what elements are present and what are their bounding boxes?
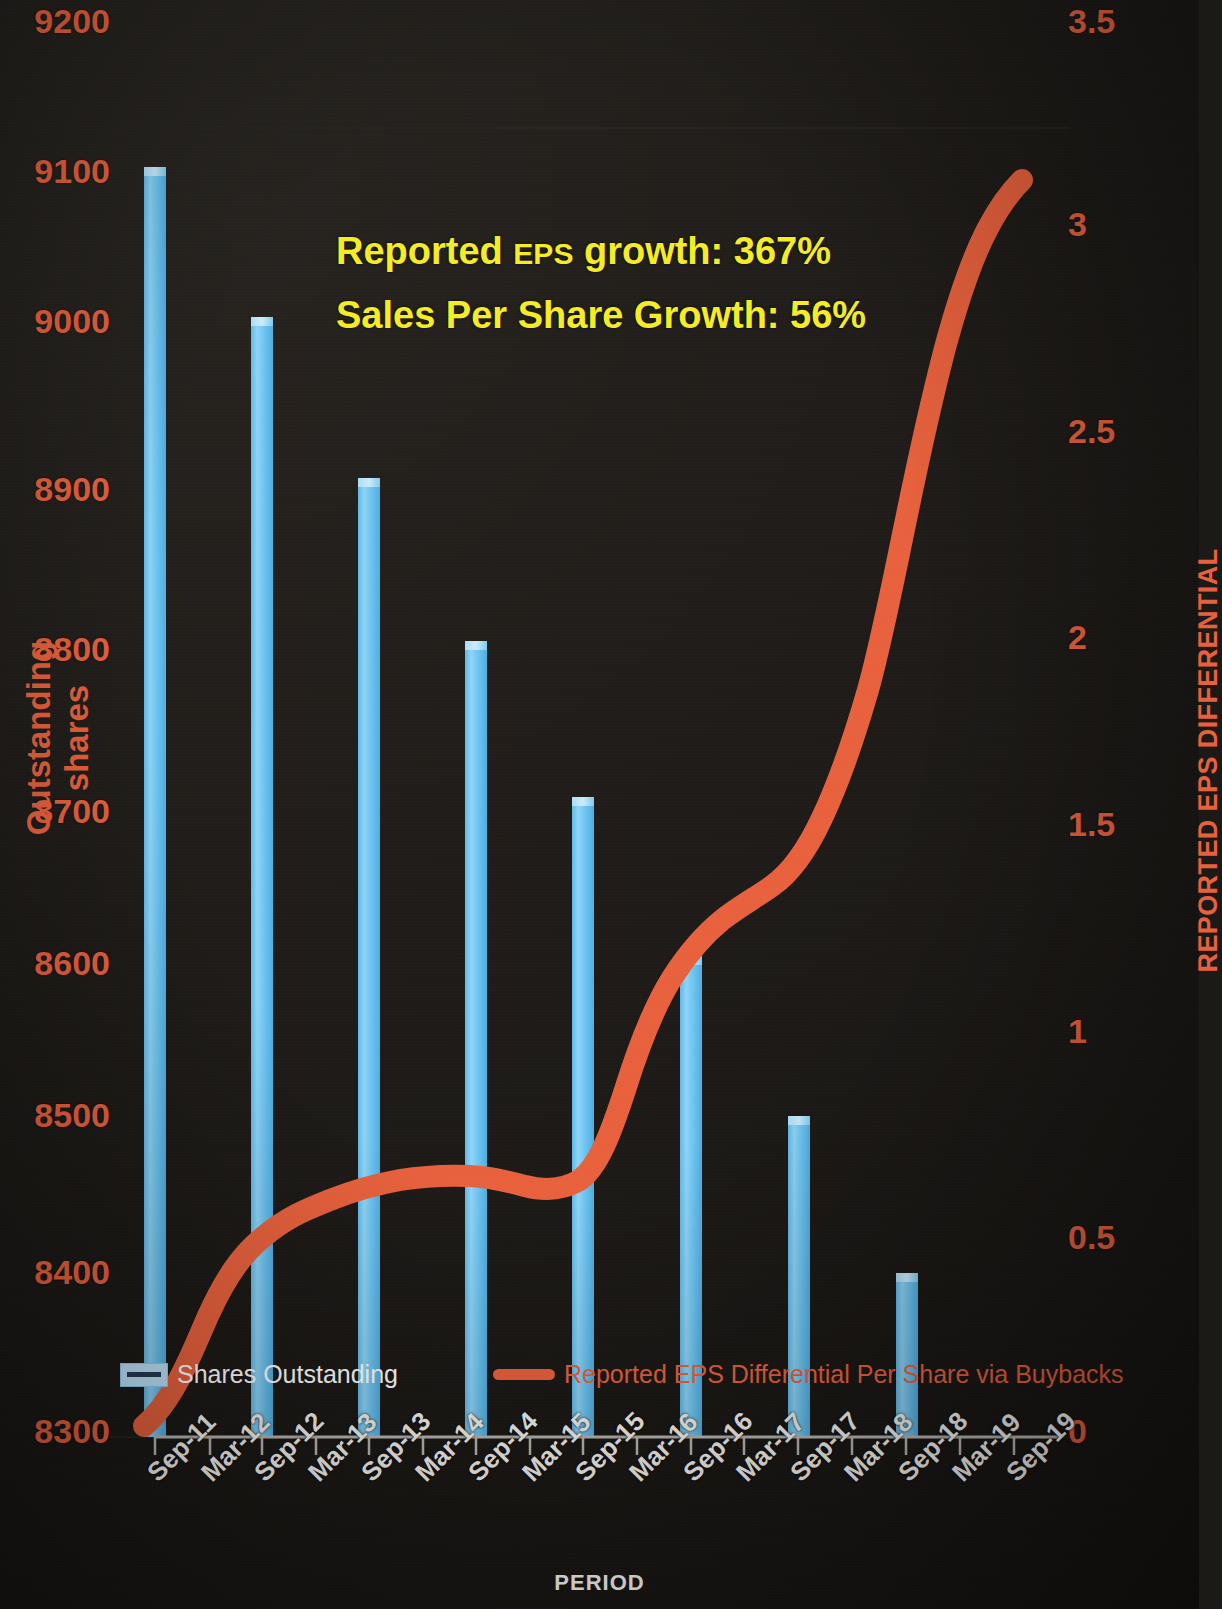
bar	[572, 797, 594, 1437]
bar	[358, 478, 380, 1437]
annotation-eps-growth-acronym: EPS	[513, 237, 573, 270]
bar	[144, 167, 166, 1437]
annotation-eps-growth-suffix: growth: 367%	[573, 230, 831, 272]
bar	[465, 641, 487, 1437]
annotation-eps-growth: Reported EPS growth: 367%	[336, 230, 831, 273]
legend-label-shares-outstanding: Shares Outstanding	[177, 1360, 398, 1389]
annotation-eps-growth-prefix: Reported	[336, 230, 513, 272]
chart-legend: Shares Outstanding Reported EPS Differen…	[120, 1352, 1080, 1398]
bar	[251, 317, 273, 1437]
legend-item-eps-differential[interactable]: Reported EPS Differential Per Share via …	[493, 1360, 1124, 1389]
line-swatch-icon	[493, 1369, 555, 1380]
legend-label-eps-differential: Reported EPS Differential Per Share via …	[564, 1360, 1124, 1389]
legend-item-shares-outstanding[interactable]: Shares Outstanding	[120, 1360, 398, 1389]
bar-swatch-icon	[120, 1363, 168, 1387]
annotation-sales-per-share-growth: Sales Per Share Growth: 56%	[336, 294, 866, 337]
